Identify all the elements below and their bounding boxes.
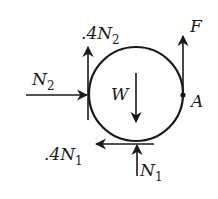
normal-force-2-label: N2 [31,69,55,93]
point-a-dot [180,92,185,97]
weight-label: W [111,84,130,104]
point-a-label: A [189,91,203,111]
friction-force-2-label: .4N2 [81,23,120,47]
free-body-diagram: .4N2 N2 W F A .4N1 N1 [0,0,218,199]
friction-force-1-label: .4N1 [44,144,83,168]
normal-force-1-label: N1 [139,160,163,184]
applied-force-label: F [189,16,203,36]
